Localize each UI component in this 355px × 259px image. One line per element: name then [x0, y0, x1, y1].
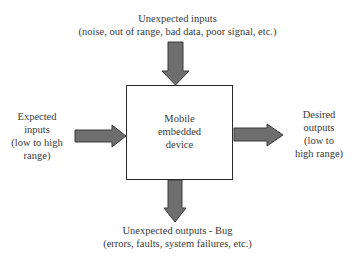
top-input-title: Unexpected inputs	[0, 12, 355, 25]
right-output-label: Desired outputs (low to high range)	[287, 108, 351, 160]
right-output-line: high range)	[287, 147, 351, 160]
center-label: Mobile embedded device	[126, 112, 233, 151]
top-input-label: Unexpected inputs (noise, out of range, …	[0, 12, 355, 38]
left-input-line: inputs	[5, 123, 69, 136]
center-line: Mobile	[126, 112, 233, 125]
right-output-line: Desired	[287, 108, 351, 121]
bottom-output-arrow	[164, 180, 186, 222]
bottom-output-title: Unexpected outputs - Bug	[0, 224, 355, 237]
right-output-line: outputs	[287, 121, 351, 134]
right-output-arrow	[234, 124, 283, 146]
left-input-line: (low to high	[5, 136, 69, 149]
left-input-line: range)	[5, 149, 69, 162]
left-input-label: Expected inputs (low to high range)	[5, 110, 69, 162]
top-input-arrow	[162, 42, 189, 85]
top-input-detail: (noise, out of range, bad data, poor sig…	[0, 25, 355, 38]
center-line: device	[126, 138, 233, 151]
center-line: embedded	[126, 125, 233, 138]
bottom-output-label: Unexpected outputs - Bug (errors, faults…	[0, 224, 355, 250]
right-output-line: (low to	[287, 134, 351, 147]
bottom-output-detail: (errors, faults, system failures, etc.)	[0, 237, 355, 250]
left-input-line: Expected	[5, 110, 69, 123]
left-input-arrow	[75, 125, 126, 147]
